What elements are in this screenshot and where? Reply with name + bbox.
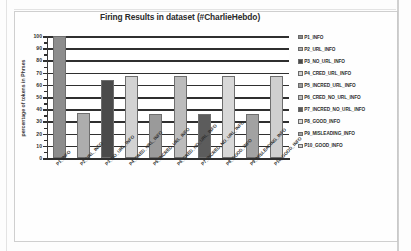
x-tick-label: P1_INFO [55, 149, 72, 166]
legend-label: P5_INCRED_URL_INFO [304, 83, 355, 88]
legend-swatch-icon [298, 71, 303, 76]
legend-label: P10_GOOD_INFO [304, 143, 342, 148]
x-tick-label: P7_INCRED_NO_URL_INFO [200, 120, 245, 166]
legend-swatch-icon [298, 107, 303, 112]
legend-swatch-icon [298, 47, 303, 52]
legend-swatch-icon [298, 83, 303, 88]
legend-swatch-icon [298, 95, 303, 100]
legend-item: P9_MISLEADING_INFO [298, 128, 402, 140]
legend-label: P9_MISLEADING_INFO [304, 131, 355, 136]
legend-label: P3_NO_URL_INFO [304, 59, 345, 64]
chart-legend: P1_INFOP2_URL_INFOP3_NO_URL_INFOP4_CRED_… [298, 31, 402, 152]
legend-label: P1_INFO [304, 35, 323, 40]
x-tick-label: P2_URL_INFO [79, 141, 104, 166]
legend-label: P4_CRED_URL_INFO [304, 71, 351, 76]
chart-page: Firing Results in dataset (#CharlieHebdo… [0, 0, 411, 251]
legend-swatch-icon [298, 119, 303, 124]
legend-item: P1_INFO [298, 31, 402, 43]
legend-item: P10_GOOD_INFO [298, 140, 402, 152]
legend-item: P2_URL_INFO [298, 43, 402, 55]
legend-label: P8_GOOD_INFO [304, 119, 340, 124]
legend-item: P8_GOOD_INFO [298, 116, 402, 128]
legend-item: P3_NO_URL_INFO [298, 55, 402, 67]
legend-label: P7_INCRED_NO_URL_INFO [304, 107, 365, 112]
legend-swatch-icon [298, 132, 303, 137]
legend-swatch-icon [298, 59, 303, 64]
legend-swatch-icon [298, 144, 303, 149]
legend-item: P5_INCRED_URL_INFO [298, 79, 402, 91]
legend-item: P7_INCRED_NO_URL_INFO [298, 104, 402, 116]
legend-label: P6_CRED_NO_URL_INFO [304, 95, 360, 100]
legend-label: P2_URL_INFO [304, 47, 335, 52]
legend-item: P6_CRED_NO_URL_INFO [298, 91, 402, 103]
scan-artifact-right [397, 0, 399, 251]
legend-item: P4_CRED_URL_INFO [298, 67, 402, 79]
legend-swatch-icon [298, 35, 303, 40]
